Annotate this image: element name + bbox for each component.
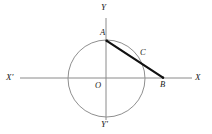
- geometry-figure: Y Y' X' X O A B C: [0, 0, 212, 134]
- point-label-o: O: [95, 81, 101, 90]
- figure-canvas: [0, 0, 212, 134]
- segment-ab: [107, 41, 163, 78]
- axis-label-x-positive: X: [195, 73, 201, 82]
- point-label-a: A: [100, 28, 105, 37]
- point-label-c: C: [140, 48, 146, 57]
- axis-label-y-negative: Y': [101, 120, 108, 129]
- point-a-marker: [105, 39, 108, 42]
- axis-label-x-negative: X': [6, 73, 13, 82]
- axis-label-y-positive: Y: [101, 3, 106, 12]
- point-label-b: B: [160, 80, 165, 89]
